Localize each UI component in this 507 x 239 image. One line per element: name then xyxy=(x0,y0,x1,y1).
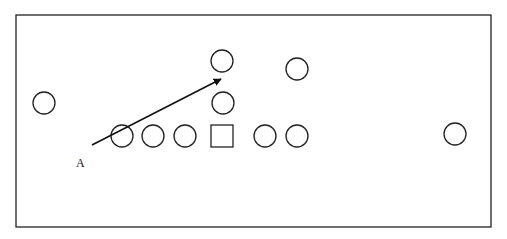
diagram-frame xyxy=(16,15,491,227)
square-center-square-icon xyxy=(211,125,233,147)
circle-row-2-circle-icon xyxy=(142,125,164,147)
circle-top-right-circle-icon xyxy=(286,58,308,80)
players-group xyxy=(33,50,466,147)
circle-row-4-circle-icon xyxy=(254,125,276,147)
label-a: A xyxy=(76,156,85,170)
circle-row-3-circle-icon xyxy=(174,125,196,147)
circle-middle-circle-icon xyxy=(212,92,234,114)
circle-row-5-circle-icon xyxy=(286,125,308,147)
circle-far-left-circle-icon xyxy=(33,92,55,114)
diagram-canvas: A xyxy=(0,0,507,239)
circle-far-right-circle-icon xyxy=(444,123,466,145)
movement-arrow xyxy=(92,79,221,145)
circle-top-circle-icon xyxy=(211,50,233,72)
circle-row-1-circle-icon xyxy=(111,125,133,147)
